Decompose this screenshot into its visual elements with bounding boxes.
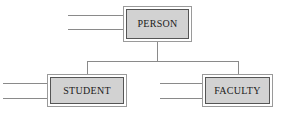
person-attribute-stub-1 bbox=[68, 15, 124, 16]
faculty-attribute-stub-2 bbox=[160, 98, 203, 99]
entity-box-person[interactable]: PERSON bbox=[123, 6, 192, 42]
entity-label-student: STUDENT bbox=[63, 86, 111, 96]
person-attribute-stub-2 bbox=[68, 29, 124, 30]
faculty-attribute-stub-1 bbox=[160, 83, 203, 84]
entity-box-faculty-inner: FACULTY bbox=[205, 77, 270, 104]
student-attribute-stub-1 bbox=[3, 83, 48, 84]
edge-branch-faculty bbox=[238, 61, 239, 75]
entity-box-faculty[interactable]: FACULTY bbox=[202, 74, 273, 107]
entity-box-student[interactable]: STUDENT bbox=[47, 74, 127, 107]
entity-box-student-inner: STUDENT bbox=[50, 77, 124, 104]
student-attribute-stub-2 bbox=[3, 98, 48, 99]
edge-branch-student bbox=[87, 61, 88, 75]
entity-label-person: PERSON bbox=[137, 19, 177, 29]
edge-person-trunk bbox=[157, 42, 158, 62]
entity-box-person-inner: PERSON bbox=[126, 9, 189, 39]
entity-label-faculty: FACULTY bbox=[214, 86, 261, 96]
edge-subclass-bar bbox=[87, 61, 239, 62]
class-hierarchy-diagram: PERSON STUDENT FACULTY bbox=[0, 0, 282, 118]
